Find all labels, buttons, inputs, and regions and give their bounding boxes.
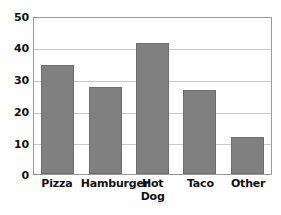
bar-pizza xyxy=(41,65,74,174)
x-tick-label-hot-dog: Hot Dog xyxy=(129,178,177,203)
y-axis: 50 40 30 20 10 0 xyxy=(0,0,29,215)
y-tick-label-10: 10 xyxy=(3,139,29,150)
bars-layer xyxy=(34,18,271,174)
bar-other xyxy=(231,137,264,174)
y-tick-label-50: 50 xyxy=(3,12,29,23)
x-tick-label-taco: Taco xyxy=(177,178,225,191)
bar-hamburger xyxy=(89,87,122,174)
bar-taco xyxy=(183,90,216,174)
y-tick-label-40: 40 xyxy=(3,43,29,54)
x-tick-label-other: Other xyxy=(224,178,272,191)
bar-chart: 50 40 30 20 10 0 Pizza Hamburger Hot Dog… xyxy=(0,0,281,215)
bar-hot-dog xyxy=(136,43,169,174)
y-tick-label-20: 20 xyxy=(3,107,29,118)
y-tick-label-30: 30 xyxy=(3,75,29,86)
y-tick-label-0: 0 xyxy=(3,170,29,181)
x-tick-label-hamburger: Hamburger xyxy=(81,178,129,191)
x-axis: Pizza Hamburger Hot Dog Taco Other xyxy=(33,178,272,214)
plot-area xyxy=(33,17,272,175)
x-tick-label-pizza: Pizza xyxy=(33,178,81,191)
